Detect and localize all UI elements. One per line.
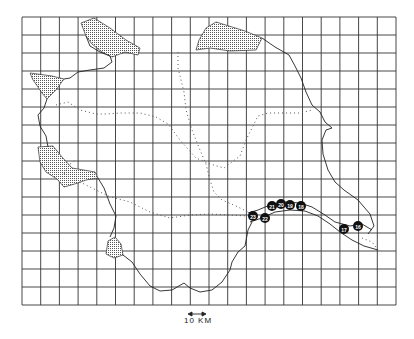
site-marker: 17 [339, 224, 349, 234]
marker-label: 19 [287, 203, 293, 209]
site-marker: 18 [296, 201, 306, 211]
marker-label: 16 [355, 224, 361, 230]
marker-label: 23 [250, 214, 256, 220]
marker-label: 20 [278, 202, 284, 208]
site-marker: 22 [260, 213, 270, 223]
stippled-areas [30, 18, 262, 258]
stippled-area-northeast [196, 22, 262, 51]
site-marker: 16 [353, 221, 363, 231]
site-marker: 23 [248, 211, 258, 221]
grid [22, 17, 396, 305]
dotted-routes [56, 52, 378, 250]
stippled-area-south [106, 237, 123, 258]
marker-label: 21 [269, 204, 275, 210]
stippled-area-north [81, 18, 140, 57]
site-marker: 21 [267, 201, 277, 211]
map-canvas: 1617181920212223 [0, 0, 414, 339]
stippled-area-west-upper [30, 73, 64, 99]
marker-label: 22 [262, 216, 268, 222]
site-marker: 20 [276, 199, 286, 209]
scale-label: 10 KM [184, 316, 212, 325]
marker-label: 18 [298, 204, 304, 210]
marker-label: 17 [341, 227, 347, 233]
site-marker: 19 [285, 200, 295, 210]
